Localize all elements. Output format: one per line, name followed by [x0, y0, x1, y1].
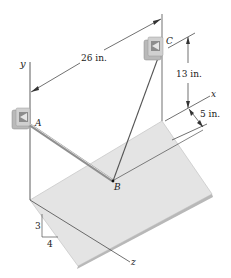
- z-axis-label: z: [130, 257, 136, 267]
- bracket-a: [12, 108, 30, 129]
- y-axis-label: y: [19, 58, 26, 69]
- svg-text:5 in.: 5 in.: [200, 109, 220, 119]
- svg-text:13 in.: 13 in.: [176, 69, 202, 79]
- dimension-13in: 13 in.: [168, 33, 202, 108]
- rod-ab: [30, 124, 113, 181]
- dimension-26in: 26 in.: [31, 19, 161, 92]
- dimension-5in: 5 in.: [172, 109, 220, 140]
- point-a-label: A: [34, 118, 42, 128]
- point-c-label: C: [166, 36, 173, 46]
- svg-text:26 in.: 26 in.: [81, 53, 107, 63]
- statics-diagram: y 26 in. 13 in. x 5 in. z 3 4: [0, 0, 231, 278]
- point-b-label: B: [113, 182, 121, 192]
- x-axis-label: x: [211, 89, 216, 99]
- svg-text:3: 3: [35, 221, 41, 231]
- bracket-c: [144, 37, 163, 60]
- svg-text:4: 4: [47, 239, 53, 249]
